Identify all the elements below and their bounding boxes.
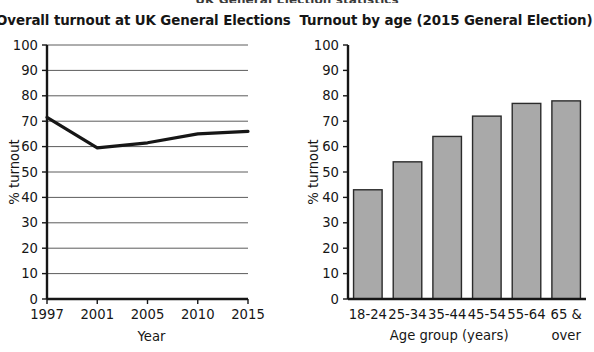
- line-chart-panel: Overall turnout at UK General Elections …: [0, 0, 294, 352]
- ytick-label-60: 60: [322, 139, 339, 154]
- ytick-label-10: 10: [322, 266, 339, 281]
- ytick-label-30: 30: [21, 215, 38, 230]
- ytick-label-70: 70: [322, 114, 339, 129]
- ytick-label-30: 30: [322, 215, 339, 230]
- xtick-label-18-24: 18-24: [349, 307, 387, 322]
- ytick-label-60: 60: [21, 139, 38, 154]
- bar-65 & over: [552, 101, 581, 299]
- xtick-label-65 & over: over: [551, 328, 581, 343]
- xtick-label-1997: 1997: [30, 307, 64, 322]
- line-chart-svg: 0102030405060708090100199720012005201020…: [0, 0, 294, 352]
- y-axis-title: % turnout: [7, 139, 22, 204]
- x-axis-title: Year: [137, 329, 166, 344]
- ytick-label-80: 80: [322, 88, 339, 103]
- chart-page: UK General Election statistics Overall t…: [0, 0, 594, 352]
- ytick-label-90: 90: [21, 63, 38, 78]
- ytick-label-80: 80: [21, 88, 38, 103]
- bar-18-24: [354, 190, 383, 299]
- bar-chart-panel: Turnout by age (2015 General Election) 0…: [294, 0, 594, 352]
- xtick-label-2001: 2001: [80, 307, 114, 322]
- ytick-label-40: 40: [322, 190, 339, 205]
- xtick-label-25-34: 25-34: [388, 307, 426, 322]
- ytick-label-70: 70: [21, 114, 38, 129]
- xtick-label-2015: 2015: [231, 307, 265, 322]
- ytick-label-20: 20: [322, 241, 339, 256]
- ytick-label-90: 90: [322, 63, 339, 78]
- ytick-label-50: 50: [21, 165, 38, 180]
- bar-45-54: [473, 116, 502, 299]
- xtick-label-2005: 2005: [131, 307, 165, 322]
- xtick-label-35-44: 35-44: [428, 307, 466, 322]
- xtick-label-65 & over: 65 &: [551, 307, 582, 322]
- xtick-label-45-54: 45-54: [468, 307, 506, 322]
- ytick-label-20: 20: [21, 241, 38, 256]
- ytick-label-10: 10: [21, 266, 38, 281]
- bar-35-44: [433, 136, 462, 299]
- ytick-label-40: 40: [21, 190, 38, 205]
- bar-25-34: [393, 162, 422, 299]
- xtick-label-2010: 2010: [181, 307, 215, 322]
- x-axis-title: Age group (years): [390, 328, 509, 343]
- ytick-label-0: 0: [331, 292, 339, 307]
- ytick-label-50: 50: [322, 165, 339, 180]
- y-axis-title: % turnout: [306, 139, 321, 204]
- xtick-label-55-64: 55-64: [507, 307, 545, 322]
- ytick-label-100: 100: [13, 38, 38, 53]
- bar-55-64: [512, 103, 541, 299]
- ytick-label-100: 100: [314, 38, 339, 53]
- turnout-line-series: [47, 117, 248, 147]
- ytick-label-0: 0: [30, 292, 38, 307]
- bar-chart-svg: 010203040506070809010018-2425-3435-4445-…: [294, 0, 594, 352]
